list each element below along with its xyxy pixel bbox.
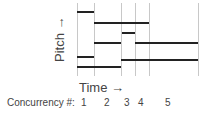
concurrency-number: 1	[81, 97, 87, 108]
pitch-axis-label: Pitch →	[52, 16, 67, 62]
note-bar	[77, 11, 94, 13]
concurrency-label: Concurrency #:	[7, 97, 75, 108]
concurrency-number: 5	[165, 97, 171, 108]
note-bar	[94, 42, 121, 44]
time-axis-label: Time →	[79, 80, 124, 95]
time-boundary-line	[135, 3, 136, 76]
note-bar	[121, 59, 198, 61]
note-bar	[77, 66, 121, 68]
concurrency-number: 4	[138, 97, 144, 108]
note-bar	[135, 42, 198, 44]
concurrency-number: 3	[124, 97, 130, 108]
time-boundary-line	[198, 3, 199, 76]
note-bar	[77, 56, 94, 58]
time-boundary-line	[149, 3, 150, 76]
time-boundary-line	[121, 3, 122, 76]
note-bar	[94, 22, 149, 24]
note-bar	[122, 32, 135, 34]
concurrency-number: 2	[104, 97, 110, 108]
